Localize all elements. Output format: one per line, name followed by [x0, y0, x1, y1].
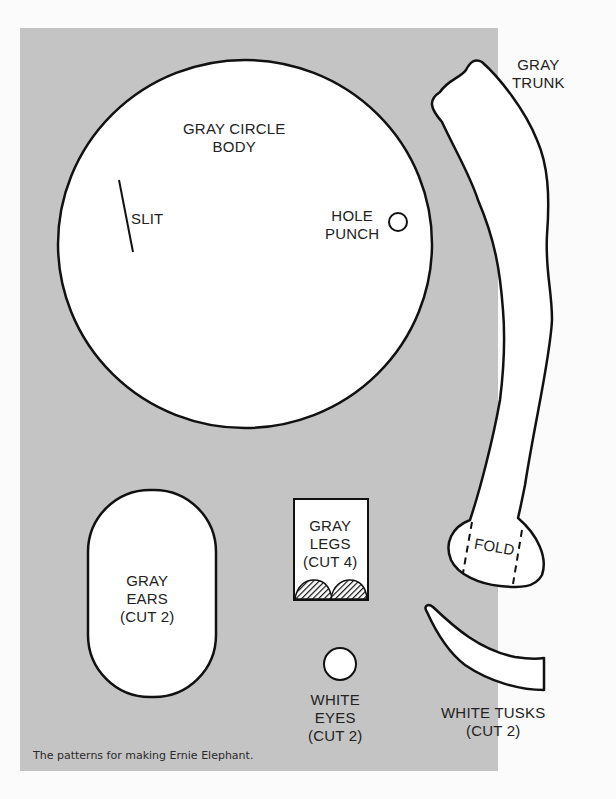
trunk-piece: [432, 60, 552, 587]
ears-label: GRAY EARS (CUT 2): [120, 572, 174, 626]
eye-piece: [324, 648, 356, 680]
body-label: GRAY CIRCLE BODY: [183, 120, 286, 156]
figure-caption: The patterns for making Ernie Elephant.: [33, 749, 253, 762]
hole-punch-circle: [389, 213, 407, 231]
hole-punch-label: HOLE PUNCH: [325, 207, 379, 243]
trunk-label: GRAY TRUNK: [512, 56, 565, 92]
slit-label: SLIT: [131, 210, 163, 228]
eyes-label: WHITE EYES (CUT 2): [308, 691, 362, 745]
body-circle-piece: [58, 60, 432, 428]
legs-label: GRAY LEGS (CUT 4): [303, 517, 357, 571]
pattern-artwork: [0, 0, 616, 799]
tusks-label: WHITE TUSKS (CUT 2): [441, 704, 545, 740]
tusk-piece: [426, 605, 544, 690]
